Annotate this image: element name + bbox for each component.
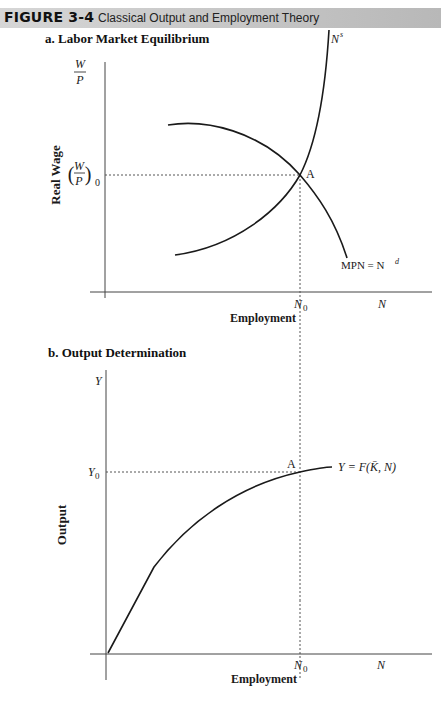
panel-a-xtick-N0-sub: 0 [303, 303, 308, 313]
panel-b-xtick-N0: N [293, 658, 303, 672]
panel-a-y-title: Real Wage [48, 145, 63, 205]
panel-a-ytick-den: P [74, 174, 83, 188]
labor-supply-curve [175, 30, 329, 255]
supply-label: N [330, 32, 340, 46]
panel-b-x-end: N [376, 658, 386, 672]
panel-a-ytick-num: W [74, 159, 85, 173]
panel-b-xtick-N0-sub: 0 [303, 664, 308, 674]
panel-b-y-top: Y [95, 374, 103, 388]
supply-label-sup: s [340, 30, 343, 39]
demand-label: MPN = N [341, 259, 385, 271]
panel-a-point-A: A [306, 167, 315, 181]
panel-a-y-top-num: W [75, 57, 86, 71]
panel-a-y-top-den: P [75, 73, 84, 87]
production-function-label: Y = F(K̄, N) [338, 460, 396, 474]
production-function-curve [108, 467, 332, 653]
panel-b-y-title: Output [54, 504, 69, 545]
panel-b-x-title: Employment [231, 672, 297, 686]
panel-b-ytick-sub: 0 [95, 471, 100, 481]
labor-demand-curve [168, 123, 347, 258]
figure-canvas: W P ( W P ) 0 Real Wage N s A MPN = N d … [0, 0, 441, 722]
panel-a-x-end: N [377, 297, 387, 311]
panel-a-ytick-sub: 0 [95, 177, 100, 188]
panel-a-xtick-N0: N [293, 297, 303, 311]
demand-label-sup: d [395, 257, 400, 266]
panel-b-chart: Y Y 0 Output A Y = F(K̄, N) N 0 N Employ… [54, 370, 432, 686]
paren-right: ) [85, 163, 92, 186]
panel-a-x-title: Employment [230, 311, 296, 325]
panel-b-point-A: A [287, 457, 296, 471]
